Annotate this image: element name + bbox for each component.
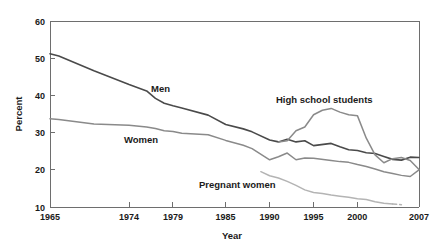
series-line-pregnant-women xyxy=(261,172,393,204)
x-axis-title: Year xyxy=(222,230,242,241)
y-tick-label: 10 xyxy=(35,203,45,213)
y-axis-title: Percent xyxy=(13,96,24,132)
y-axis-ticks: 10 20 30 40 50 60 xyxy=(35,17,55,213)
x-tick-label: 1979 xyxy=(163,212,183,222)
y-tick-label: 60 xyxy=(35,17,45,27)
y-tick-label: 30 xyxy=(35,128,45,138)
y-tick-label: 50 xyxy=(35,54,45,64)
series-label-high-school-students: High school students xyxy=(276,94,373,105)
series-label-women: Women xyxy=(124,134,158,145)
line-chart-plot: 10 20 30 40 50 60 1965 1974 1979 1985 19… xyxy=(0,0,444,248)
x-tick-label: 1974 xyxy=(119,212,139,222)
x-tick-label: 1995 xyxy=(303,212,323,222)
series-line-women xyxy=(50,119,419,177)
y-tick-label: 20 xyxy=(35,165,45,175)
x-tick-label: 1985 xyxy=(216,212,236,222)
x-tick-label: 1965 xyxy=(40,212,60,222)
series-line-pregnant-women-tail xyxy=(393,204,402,205)
chart-figure: Cigarette smoking 10 20 30 40 50 60 xyxy=(0,0,444,248)
x-axis-ticks: 1965 1974 1979 1985 1990 1995 2000 2007 xyxy=(40,202,429,222)
x-tick-label: 2000 xyxy=(347,212,367,222)
series-line-men xyxy=(50,54,419,160)
y-tick-label: 40 xyxy=(35,91,45,101)
x-tick-label: 1990 xyxy=(259,212,279,222)
x-tick-label: 2007 xyxy=(409,212,429,222)
series-label-men: Men xyxy=(151,83,170,94)
series-label-pregnant-women: Pregnant women xyxy=(199,179,276,190)
